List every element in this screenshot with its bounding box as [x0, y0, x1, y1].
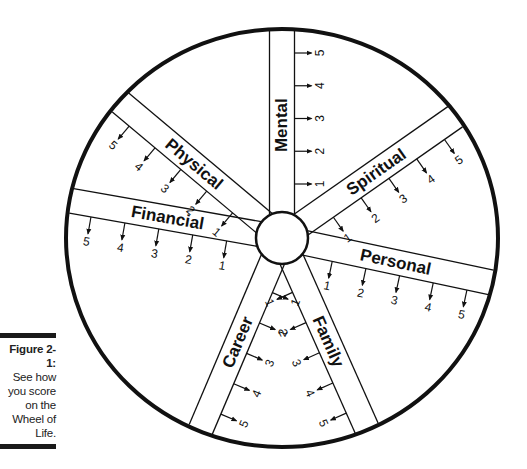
spoke-label: Personal [358, 245, 432, 279]
figure-caption: Figure 2-1: See how you score on the Whe… [0, 333, 56, 449]
score-label: 4 [424, 172, 438, 187]
spoke-spiritual: Spiritual12345 [288, 106, 466, 245]
score-label: 5 [313, 49, 327, 56]
score-label: 4 [132, 159, 146, 174]
score-arrow [389, 178, 399, 192]
caption-line: on the [0, 398, 56, 412]
score-label: 3 [150, 246, 159, 261]
spoke-band-edge [128, 93, 278, 219]
score-arrow [290, 323, 306, 330]
spoke-mental: Mental12345 [270, 31, 327, 222]
hub-circle [256, 212, 308, 264]
score-arrow [463, 290, 467, 307]
score-label: 5 [82, 234, 91, 249]
score-label: 4 [302, 387, 318, 399]
score-label: 4 [116, 240, 125, 255]
caption-line: you score [0, 384, 56, 398]
spoke-label: Spiritual [343, 145, 410, 200]
score-label: 3 [262, 357, 278, 369]
score-label: 4 [423, 300, 433, 315]
score-label: 3 [390, 293, 400, 308]
score-arrow [362, 269, 366, 286]
score-arrow [118, 126, 129, 139]
spoke-financial: Financial12345 [69, 189, 269, 274]
score-label: 5 [457, 307, 467, 322]
score-arrow [260, 323, 276, 330]
score-label: 2 [184, 252, 193, 267]
score-label: 5 [236, 418, 252, 430]
score-label: 3 [289, 357, 305, 369]
score-label: 1 [313, 180, 327, 187]
score-arrow [417, 159, 427, 173]
score-arrow [304, 353, 320, 360]
score-label: 4 [313, 82, 327, 89]
score-arrow [329, 261, 333, 278]
score-arrow [224, 241, 227, 258]
spoke-label: Mental [273, 98, 292, 152]
score-arrow [444, 139, 454, 153]
score-label: 1 [218, 258, 227, 273]
score-label: 2 [313, 148, 327, 155]
score-label: 4 [249, 387, 265, 399]
score-arrow [88, 217, 91, 234]
score-arrow [317, 383, 333, 390]
score-label: 3 [158, 181, 172, 196]
score-arrow [430, 283, 434, 300]
spoke-band-edge [212, 257, 287, 434]
score-label: 2 [356, 286, 366, 301]
score-arrow [247, 353, 263, 360]
score-arrow [396, 276, 400, 293]
score-arrow [122, 223, 125, 240]
figure-label: Figure 2-1: [0, 342, 56, 370]
score-label: 1 [322, 278, 332, 293]
score-label: 5 [316, 417, 332, 429]
caption-line: Life. [0, 426, 56, 440]
spoke-career: Career12345 [189, 247, 303, 434]
caption-rule-bottom [0, 444, 56, 449]
score-arrow [221, 414, 237, 421]
wheel-of-life-diagram: Mental12345Spiritual12345Personal12345Fa… [0, 0, 527, 469]
score-label: 2 [369, 210, 383, 225]
score-label: 5 [106, 138, 120, 153]
score-label: 1 [209, 225, 223, 240]
score-label: 5 [452, 152, 466, 167]
score-label: 3 [397, 191, 411, 206]
caption-line: Wheel of [0, 412, 56, 426]
score-arrow [361, 198, 371, 212]
score-arrow [333, 217, 343, 231]
score-arrow [156, 229, 159, 246]
spoke-personal: Personal12345 [295, 229, 494, 322]
caption-rule-top [0, 333, 56, 338]
score-arrow [331, 413, 347, 420]
spoke-band-edge [288, 106, 449, 218]
spoke-band-edge [189, 247, 264, 424]
score-arrow [170, 169, 181, 182]
score-arrow [196, 191, 207, 204]
score-arrow [144, 148, 155, 161]
score-arrow [190, 235, 193, 252]
score-arrow [234, 384, 250, 391]
caption-line: See how [0, 370, 56, 384]
score-label: 3 [313, 115, 327, 122]
